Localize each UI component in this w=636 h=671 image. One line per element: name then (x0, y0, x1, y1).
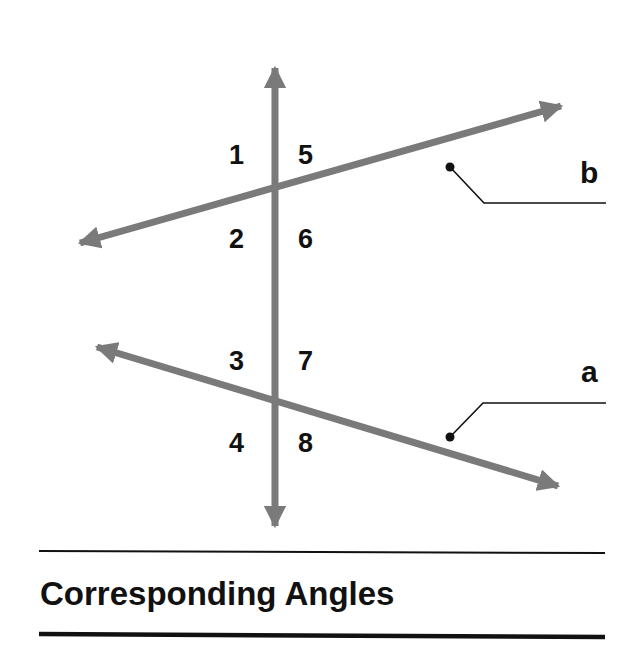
line-b (80, 106, 561, 243)
angle-2-label: 2 (229, 224, 244, 254)
angle-7-label: 7 (298, 346, 313, 376)
angle-6-label: 6 (298, 224, 313, 254)
line-a-label: a (581, 355, 598, 388)
angle-8-label: 8 (298, 428, 313, 458)
diagram-title: Corresponding Angles (40, 575, 394, 612)
line-a (97, 347, 558, 486)
bottom-rule (39, 634, 605, 637)
top-rule (39, 551, 605, 553)
angle-4-label: 4 (229, 428, 244, 458)
line-a-leader (446, 403, 607, 442)
line-b-label: b (580, 156, 598, 189)
corresponding-angles-diagram: 1 5 2 6 3 7 4 8 b a Corresponding Angles (0, 0, 636, 671)
angle-1-label: 1 (229, 140, 244, 170)
angle-3-label: 3 (229, 346, 244, 376)
angle-5-label: 5 (298, 140, 313, 170)
